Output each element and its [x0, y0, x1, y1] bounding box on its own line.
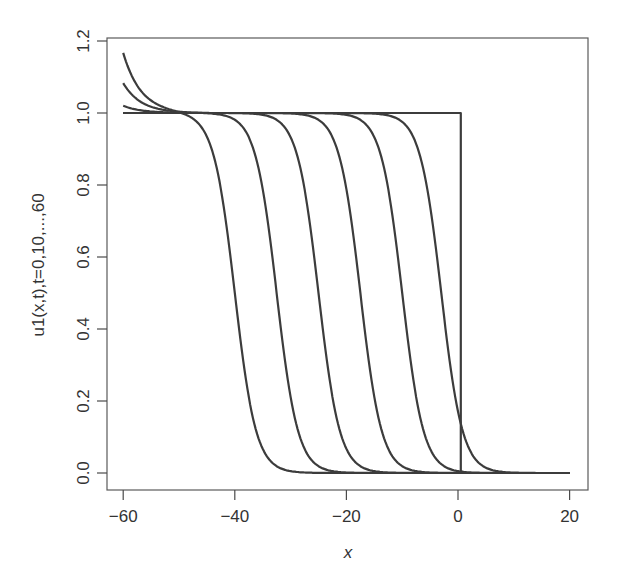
curve-t-30: [123, 113, 569, 473]
y-axis-title: u1(x,t),t=0,10,...,60: [29, 193, 48, 336]
plot-box: [107, 38, 588, 490]
plot-frame: [107, 38, 588, 490]
x-tick-label: 20: [560, 507, 579, 526]
y-tick-label: 1.0: [74, 101, 93, 125]
curve-t-50: [123, 83, 569, 473]
x-tick-label: −40: [220, 507, 249, 526]
y-axis: 0.00.20.40.60.81.01.2: [74, 29, 107, 485]
x-tick-label: −20: [332, 507, 361, 526]
y-tick-label: 0.2: [74, 389, 93, 413]
x-tick-label: 0: [453, 507, 462, 526]
curves: [123, 53, 569, 473]
x-tick-label: −60: [109, 507, 138, 526]
y-tick-label: 0.0: [74, 461, 93, 485]
y-tick-label: 0.6: [74, 245, 93, 269]
x-axis: −60−40−20020: [109, 490, 579, 526]
curve-t-40: [123, 106, 569, 473]
x-axis-title: x: [343, 543, 353, 562]
curve-t-10: [123, 113, 569, 473]
y-tick-label: 0.4: [74, 317, 93, 341]
y-tick-label: 0.8: [74, 173, 93, 197]
line-chart: −60−40−20020 0.00.20.40.60.81.01.2 x u1(…: [0, 0, 639, 581]
curve-t-0: [123, 113, 569, 473]
curve-t-20: [123, 113, 569, 473]
y-tick-label: 1.2: [74, 29, 93, 53]
